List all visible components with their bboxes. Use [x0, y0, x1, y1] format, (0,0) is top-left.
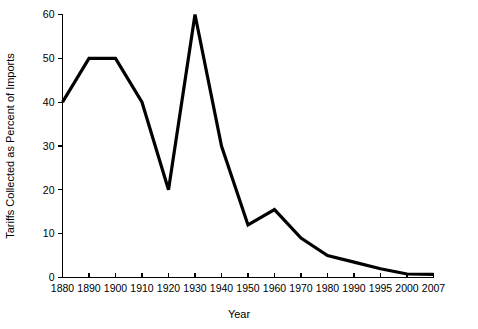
- x-tick-label: 1970: [289, 282, 313, 294]
- x-tick-label: 1910: [130, 282, 154, 294]
- x-tick-label: 1960: [263, 282, 287, 294]
- x-tick-label: 1880: [51, 282, 75, 294]
- x-tick-label: 1900: [104, 282, 128, 294]
- x-tick-label: 1930: [183, 282, 207, 294]
- x-axis-tick-labels: 1880189019001910192019301940195019601970…: [51, 282, 446, 294]
- x-axis-ticks: [63, 273, 434, 278]
- y-tick-label: 10: [43, 227, 55, 239]
- data-series-line: [63, 15, 434, 275]
- y-tick-label: 40: [43, 96, 55, 108]
- x-tick-label: 1920: [157, 282, 181, 294]
- y-axis-tick-labels: 0102030405060: [43, 8, 55, 283]
- x-axis-title: Year: [228, 308, 251, 320]
- y-tick-label: 50: [43, 52, 55, 64]
- x-tick-label: 1940: [210, 282, 234, 294]
- y-axis-ticks: [58, 15, 63, 278]
- y-tick-label: 30: [43, 140, 55, 152]
- line-chart: 0102030405060 18801890190019101920193019…: [0, 0, 478, 329]
- x-tick-label: 1995: [369, 282, 393, 294]
- y-axis-title: Tariffs Collected as Percent of Imports: [4, 53, 16, 239]
- y-tick-label: 60: [43, 8, 55, 20]
- x-tick-label: 1890: [77, 282, 101, 294]
- y-tick-label: 20: [43, 184, 55, 196]
- x-tick-label: 2007: [422, 282, 446, 294]
- x-tick-label: 1980: [316, 282, 340, 294]
- x-tick-label: 1950: [236, 282, 260, 294]
- chart-figure: 0102030405060 18801890190019101920193019…: [0, 0, 478, 329]
- x-tick-label: 1990: [342, 282, 366, 294]
- x-tick-label: 2000: [395, 282, 419, 294]
